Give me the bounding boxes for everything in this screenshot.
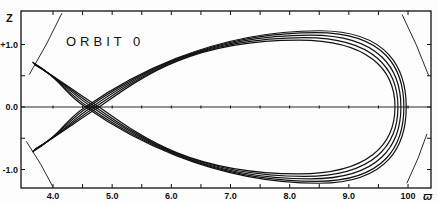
y-tick-label: 0.0 <box>5 102 18 112</box>
x-tick-label: 4.0 <box>47 191 60 201</box>
x-axis-label: ϖ <box>423 190 433 202</box>
zero-velocity-curve <box>26 141 53 187</box>
zero-velocity-curve <box>402 15 429 76</box>
x-tick-label: 6.0 <box>165 191 178 201</box>
chart-title: ORBIT 0 <box>66 34 144 49</box>
y-tick-label: +1.0 <box>0 40 18 50</box>
x-tick-label: 9.0 <box>343 191 356 201</box>
zero-velocity-curve <box>29 13 62 74</box>
x-tick-label: 7.0 <box>224 191 237 201</box>
zero-velocity-curve <box>407 134 427 183</box>
y-tick-label: -1.0 <box>2 165 18 175</box>
orbit-figure: 4.05.06.07.08.09.0100+1.00.0-1.0 ORBIT 0… <box>0 0 438 203</box>
x-tick-label: 5.0 <box>106 191 119 201</box>
x-tick-label: 100 <box>401 191 416 201</box>
orbit-plot: 4.05.06.07.08.09.0100+1.00.0-1.0 ORBIT 0… <box>0 0 438 203</box>
y-axis-label: z <box>6 12 13 24</box>
x-tick-label: 8.0 <box>283 191 296 201</box>
